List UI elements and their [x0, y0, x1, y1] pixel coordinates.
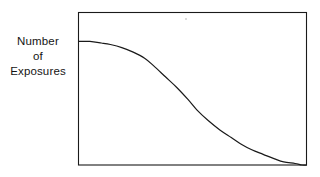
scan-artifact-speck [185, 18, 187, 20]
exposure-decay-curve [79, 41, 307, 165]
chart-plot [0, 0, 320, 177]
plot-frame [79, 13, 307, 166]
figure-container: Number of Exposures [0, 0, 320, 177]
